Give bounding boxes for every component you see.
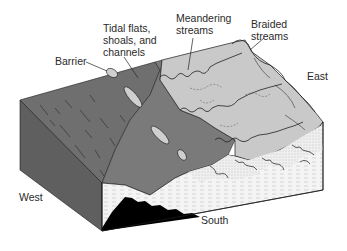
label-braided-streams: Braided streams: [251, 18, 288, 42]
label-west: West: [19, 191, 43, 203]
label-tidal-flats: Tidal flats, shoals, and channels: [103, 22, 157, 58]
label-meandering-streams: Meandering streams: [176, 12, 231, 36]
label-east: East: [307, 70, 328, 82]
block-diagram: [0, 0, 347, 251]
label-barrier: Barrier: [55, 55, 87, 67]
label-south: South: [201, 214, 228, 226]
